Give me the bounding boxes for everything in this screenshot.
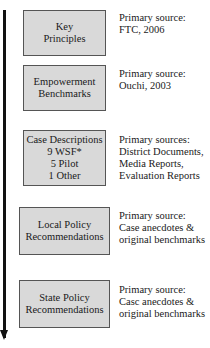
box-line: State Policy xyxy=(39,292,89,304)
step-box-key-principles: Key Principles xyxy=(23,10,106,56)
source-line: Media Reports, xyxy=(119,158,204,170)
source-line: Primary source: xyxy=(119,284,205,296)
source-note-local-policy: Primary source: Case anecdotes & origina… xyxy=(119,210,205,246)
source-line: original benchmarks xyxy=(119,308,205,320)
step-box-empowerment-benchmarks: Empowerment Benchmarks xyxy=(23,65,106,111)
source-line: Case anecdotes & xyxy=(119,222,205,234)
source-note-case-descriptions: Primary sources: District Documents, Med… xyxy=(119,134,204,182)
box-line: Local Policy xyxy=(38,219,91,231)
box-line: Empowerment xyxy=(34,76,96,88)
box-line: Recommendations xyxy=(25,304,103,316)
step-box-state-policy: State Policy Recommendations xyxy=(19,280,110,328)
source-note-key-principles: Primary source: FTC, 2006 xyxy=(119,12,186,36)
source-line: Primary source: xyxy=(119,12,186,24)
source-line: original benchmarks xyxy=(119,234,205,246)
source-line: FTC, 2006 xyxy=(119,24,186,36)
arrow-down-icon xyxy=(0,330,8,340)
box-line: 1 Other xyxy=(49,170,81,182)
source-line: Evaluation Reports xyxy=(119,170,204,182)
arrow-shaft xyxy=(3,10,6,338)
source-line: Primary source: xyxy=(119,68,186,80)
source-line: District Documents, xyxy=(119,146,204,158)
source-line: Primary sources: xyxy=(119,134,204,146)
box-line: Benchmarks xyxy=(38,88,91,100)
source-line: Casc anecdotes & xyxy=(119,296,205,308)
step-box-case-descriptions: Case Descriptions 9 WSF* 5 Pilot 1 Other xyxy=(23,130,106,186)
source-line: Ouchi, 2003 xyxy=(119,80,186,92)
source-note-state-policy: Primary source: Casc anecdotes & origina… xyxy=(119,284,205,320)
step-box-local-policy: Local Policy Recommendations xyxy=(19,207,110,255)
box-line: 5 Pilot xyxy=(51,158,79,170)
box-line: Case Descriptions xyxy=(26,134,102,146)
box-line: Key xyxy=(56,21,74,33)
box-line: Recommendations xyxy=(25,231,103,243)
box-line: Principles xyxy=(44,33,86,45)
source-note-empowerment-benchmarks: Primary source: Ouchi, 2003 xyxy=(119,68,186,92)
box-line: 9 WSF* xyxy=(47,146,82,158)
source-line: Primary source: xyxy=(119,210,205,222)
